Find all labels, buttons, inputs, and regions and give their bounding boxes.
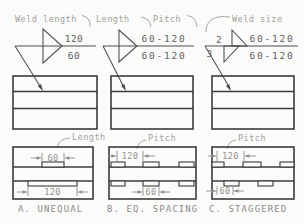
length-pitch-above-line: 60-120 [249, 33, 294, 44]
length-pitch-below-line: 60-120 [141, 50, 186, 61]
dimension-arrowhead-icon [77, 190, 83, 193]
dimension-arrowhead-icon [212, 154, 218, 157]
length-label: Length [96, 14, 130, 24]
weld-symbol-figure: Weld length 120 60 Length 60 [0, 0, 304, 224]
panel-c-caption: C. STAGGERED [209, 204, 287, 214]
dimension-arrowhead-icon [23, 190, 29, 193]
pitch-detail-label: Pitch [238, 133, 266, 143]
length-detail-label: Length [72, 132, 106, 142]
dimension-arrowhead-icon [159, 190, 165, 193]
leader-arrowhead-icon [38, 84, 43, 91]
weld-length-label: Weld length [15, 14, 77, 24]
weld-length-leader-curl [82, 16, 90, 27]
weld-size-below-line: 3 [206, 48, 212, 59]
pitch-leader-curl [188, 16, 198, 28]
length-detail-leader-curl [57, 138, 70, 147]
weld-bead-top [143, 162, 159, 167]
plate-edge-view [13, 76, 97, 129]
dimension-arrowhead-icon [143, 154, 149, 157]
weld-bead-bottom [179, 181, 194, 186]
pitch-dimension: 120 [122, 151, 139, 161]
leader-line [103, 46, 125, 89]
weld-bead-top [179, 162, 194, 167]
leader-arrowhead-icon [226, 84, 231, 91]
dimension-arrowhead-icon [112, 154, 118, 157]
dimension-arrowhead-icon [64, 156, 70, 159]
panel-b-caption: B. EQ. SPACING [107, 204, 198, 214]
leader-arrowhead-icon [121, 84, 126, 91]
length-above-line: 120 [65, 33, 84, 44]
weld-length-dimension: 60 [219, 186, 230, 196]
weld-length-dimension: 60 [47, 153, 58, 163]
weld-bead-bottom [111, 181, 125, 186]
dimension-arrowhead-icon [244, 154, 250, 157]
weld-length-dimension: 120 [44, 187, 61, 197]
weld-bead-bottom [143, 181, 159, 186]
length-pitch-above-line: 60-120 [141, 33, 186, 44]
length-below-line: 60 [68, 50, 80, 61]
dimension-arrowhead-icon [37, 156, 43, 159]
plate-edge-view [212, 76, 294, 129]
weld-bead-top [280, 162, 294, 167]
panel-c: Weld size 2 3 60-120 60-120 Pitch [205, 14, 298, 214]
fillet-triangle-other-side [232, 30, 247, 46]
weld-bead-bottom [28, 181, 77, 186]
panel-a: Weld length 120 60 Length 60 [13, 14, 106, 214]
weld-bead-bottom-staggered [258, 181, 273, 186]
length-pitch-below-line: 60-120 [249, 50, 294, 61]
weld-size-leader-curl [206, 17, 230, 32]
weld-bead-top [111, 162, 125, 167]
pitch-dimension: 120 [222, 151, 239, 161]
panel-a-caption: A. UNEQUAL [18, 204, 83, 214]
pitch-detail-label: Pitch [148, 133, 176, 143]
plate-edge-view [111, 76, 193, 129]
dimension-arrowhead-icon [233, 189, 239, 192]
pitch-label: Pitch [153, 14, 181, 24]
leader-line [15, 46, 42, 89]
weld-bead-top [212, 162, 224, 167]
weld-bead-top [243, 162, 261, 167]
dimension-arrowhead-icon [212, 189, 218, 192]
intermittent-fillet-weld-diagram: Weld length 120 60 Length 60 [0, 0, 304, 224]
weld-length-dimension: 60 [145, 187, 156, 197]
panel-b: Length Pitch 60-120 60-120 Pitch [96, 14, 198, 214]
dimension-arrowhead-icon [138, 190, 144, 193]
weld-size-label: Weld size [232, 14, 283, 24]
weld-size-above-line: 2 [216, 34, 222, 45]
length-leader-curl [141, 17, 151, 27]
fillet-triangle-arrow-side [224, 46, 239, 62]
